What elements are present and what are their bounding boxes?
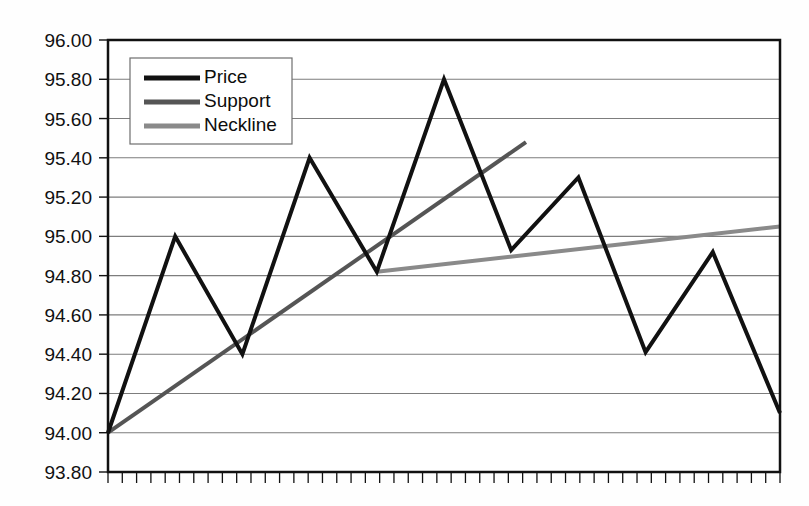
y-axis-ticks-group [99,40,108,472]
y-axis-tick-label: 95.00 [44,226,92,247]
y-axis-tick-label: 94.00 [44,423,92,444]
y-axis-tick-label: 94.20 [44,383,92,404]
y-axis-tick-label: 96.00 [44,30,92,51]
figure-container: 96.0095.8095.6095.4095.2095.0094.8094.60… [0,0,809,506]
y-axis-tick-label: 94.40 [44,344,92,365]
y-axis-tick-label: 95.80 [44,69,92,90]
x-axis-ticks-group [108,472,780,483]
y-axis-labels-group: 96.0095.8095.6095.4095.2095.0094.8094.60… [44,30,92,483]
legend-label-neckline: Neckline [204,114,277,135]
y-axis-tick-label: 95.40 [44,148,92,169]
y-axis-tick-label: 93.80 [44,462,92,483]
y-axis-tick-label: 94.80 [44,266,92,287]
line-chart: 96.0095.8095.6095.4095.2095.0094.8094.60… [0,0,809,506]
legend-label-price: Price [204,66,247,87]
y-axis-tick-label: 95.20 [44,187,92,208]
y-axis-tick-label: 94.60 [44,305,92,326]
y-axis-tick-label: 95.60 [44,109,92,130]
legend-label-support: Support [204,90,271,111]
chart-legend: PriceSupportNeckline [130,58,292,144]
